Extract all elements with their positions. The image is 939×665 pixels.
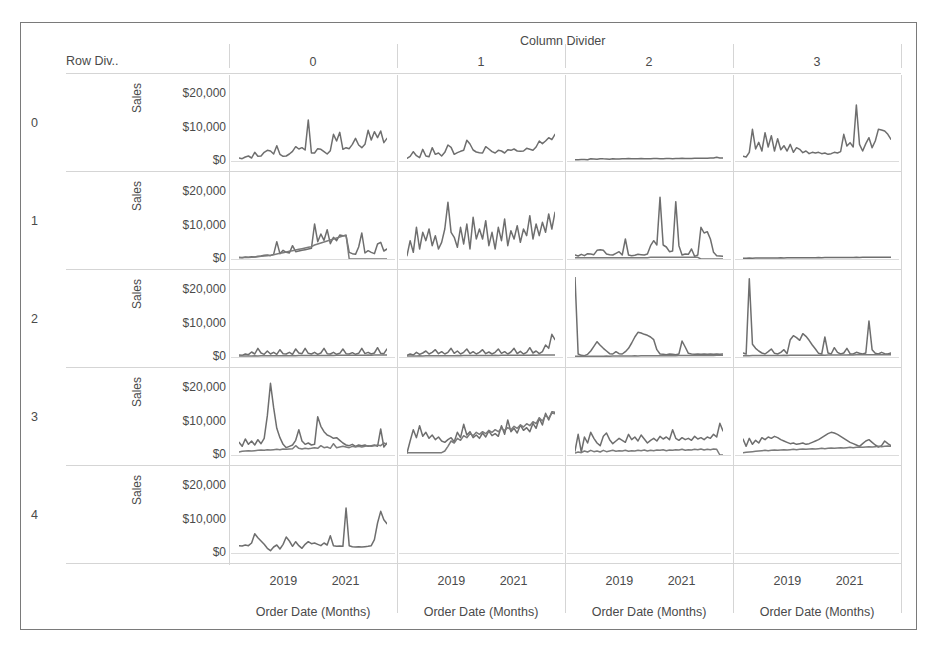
series-plot-r1-c1 bbox=[407, 179, 555, 261]
series-plot-r2-c2 bbox=[575, 277, 723, 359]
zero-baseline-r1-c3 bbox=[735, 259, 899, 260]
series-plot-r2-c3 bbox=[743, 277, 891, 359]
grid-top-rule bbox=[229, 73, 901, 74]
y-axis-title-text: Sales bbox=[131, 475, 143, 505]
screenshot-root: Column DividerRow Div..01230Sales$20,000… bbox=[0, 0, 939, 665]
zero-baseline-r2-c1 bbox=[399, 357, 563, 358]
facet-panel-r4-c1 bbox=[397, 467, 565, 565]
zero-baseline-r1-c2 bbox=[567, 259, 731, 260]
zero-baseline-r4-c3 bbox=[735, 553, 899, 554]
zero-baseline-r0-c1 bbox=[399, 161, 563, 162]
series-plot-r1-c0 bbox=[239, 179, 387, 261]
facet-panel-r2-c2 bbox=[565, 271, 733, 369]
series-line-2 bbox=[743, 355, 891, 356]
y-tick-label-r0-0: $20,000 bbox=[146, 87, 226, 99]
y-tick-label-r0-1: $10,000 bbox=[146, 121, 226, 133]
y-tick-label-r4-2: $0 bbox=[146, 546, 226, 558]
series-line-1 bbox=[407, 334, 555, 355]
zero-baseline-r3-c2 bbox=[567, 455, 731, 456]
column-header-tick-3 bbox=[733, 44, 734, 68]
row-header-0: 0 bbox=[31, 117, 38, 130]
facet-panel-r1-c1 bbox=[397, 173, 565, 271]
zero-baseline-r2-c3 bbox=[735, 357, 899, 358]
y-tick-label-r2-2: $0 bbox=[146, 350, 226, 362]
zero-baseline-r4-c2 bbox=[567, 553, 731, 554]
series-line-1 bbox=[407, 134, 555, 158]
series-plot-r0-c2 bbox=[575, 81, 723, 163]
series-plot-r1-c3 bbox=[743, 179, 891, 261]
x-tick-label-c2-2021: 2021 bbox=[657, 575, 707, 588]
column-divider-title: Column Divider bbox=[520, 35, 605, 48]
zero-baseline-r4-c1 bbox=[399, 553, 563, 554]
x-tick-label-c3-2021: 2021 bbox=[825, 575, 875, 588]
series-plot-r3-c1 bbox=[407, 375, 555, 457]
facet-panel-r1-c3 bbox=[733, 173, 901, 271]
facet-panel-r4-c3 bbox=[733, 467, 901, 565]
x-tick-label-c3-2019: 2019 bbox=[762, 575, 812, 588]
y-tick-label-r1-0: $20,000 bbox=[146, 185, 226, 197]
zero-baseline-r2-c2 bbox=[567, 357, 731, 358]
y-tick-label-r2-1: $10,000 bbox=[146, 317, 226, 329]
y-tick-label-r0-2: $0 bbox=[146, 154, 226, 166]
x-axis-title-c3: Order Date (Months) bbox=[737, 606, 897, 619]
row-header-2: 2 bbox=[31, 313, 38, 326]
y-tick-label-r4-1: $10,000 bbox=[146, 513, 226, 525]
series-line-2 bbox=[239, 355, 387, 356]
facet-panel-r2-c0 bbox=[229, 271, 397, 369]
series-line-1 bbox=[575, 197, 723, 256]
facet-panel-r3-c1 bbox=[397, 369, 565, 467]
y-tick-label-r3-0: $20,000 bbox=[146, 381, 226, 393]
row-header-4: 4 bbox=[31, 509, 38, 522]
facet-panel-r4-c2 bbox=[565, 467, 733, 565]
series-line-1 bbox=[239, 383, 387, 447]
series-line-1 bbox=[239, 508, 387, 551]
y-tick-label-r4-0: $20,000 bbox=[146, 479, 226, 491]
facet-panel-r3-c2 bbox=[565, 369, 733, 467]
x-axis-title-c1: Order Date (Months) bbox=[401, 606, 561, 619]
facet-panel-r4-c0 bbox=[229, 467, 397, 565]
zero-baseline-r0-c2 bbox=[567, 161, 731, 162]
y-tick-label-r1-2: $0 bbox=[146, 252, 226, 264]
column-header-0: 0 bbox=[288, 56, 338, 69]
y-axis-title-row-2: Sales bbox=[131, 279, 143, 329]
facet-panel-r0-c0 bbox=[229, 75, 397, 173]
facet-panel-r0-c1 bbox=[397, 75, 565, 173]
x-tick-label-c0-2019: 2019 bbox=[258, 575, 308, 588]
zero-baseline-r3-c3 bbox=[735, 455, 899, 456]
series-line-1 bbox=[575, 157, 723, 159]
series-plot-r0-c1 bbox=[407, 81, 555, 163]
series-line-1 bbox=[575, 277, 723, 356]
y-axis-title-row-1: Sales bbox=[131, 181, 143, 231]
facet-panel-r1-c2 bbox=[565, 173, 733, 271]
y-tick-label-r1-1: $10,000 bbox=[146, 219, 226, 231]
grid-right-rule bbox=[901, 75, 902, 613]
row-divider-label: Row Div.. bbox=[66, 55, 119, 68]
zero-baseline-r2-c0 bbox=[231, 357, 395, 358]
facet-panel-r0-c2 bbox=[565, 75, 733, 173]
zero-baseline-r0-c3 bbox=[735, 161, 899, 162]
series-line-1 bbox=[743, 432, 891, 447]
column-header-2: 2 bbox=[624, 56, 674, 69]
zero-baseline-r1-c1 bbox=[399, 259, 563, 260]
series-plot-r4-c0 bbox=[239, 473, 387, 555]
y-axis-title-text: Sales bbox=[131, 181, 143, 211]
series-plot-r3-c0 bbox=[239, 375, 387, 457]
zero-baseline-r3-c0 bbox=[231, 455, 395, 456]
series-line-1 bbox=[743, 105, 891, 157]
zero-baseline-r0-c0 bbox=[231, 161, 395, 162]
column-header-1: 1 bbox=[456, 56, 506, 69]
y-axis-title-row-0: Sales bbox=[131, 83, 143, 133]
series-line-2 bbox=[407, 413, 555, 453]
facet-panel-r2-c1 bbox=[397, 271, 565, 369]
x-tick-label-c1-2019: 2019 bbox=[426, 575, 476, 588]
y-tick-label-r2-0: $20,000 bbox=[146, 283, 226, 295]
series-plot-r0-c0 bbox=[239, 81, 387, 163]
zero-baseline-r4-c0 bbox=[231, 553, 395, 554]
series-line-1 bbox=[575, 423, 723, 452]
series-line-1 bbox=[239, 224, 387, 258]
series-line-1 bbox=[743, 279, 891, 354]
column-header-tick-1 bbox=[397, 44, 398, 68]
y-tick-label-r3-1: $10,000 bbox=[146, 415, 226, 427]
x-axis-title-c0: Order Date (Months) bbox=[233, 606, 393, 619]
row-header-3: 3 bbox=[31, 411, 38, 424]
